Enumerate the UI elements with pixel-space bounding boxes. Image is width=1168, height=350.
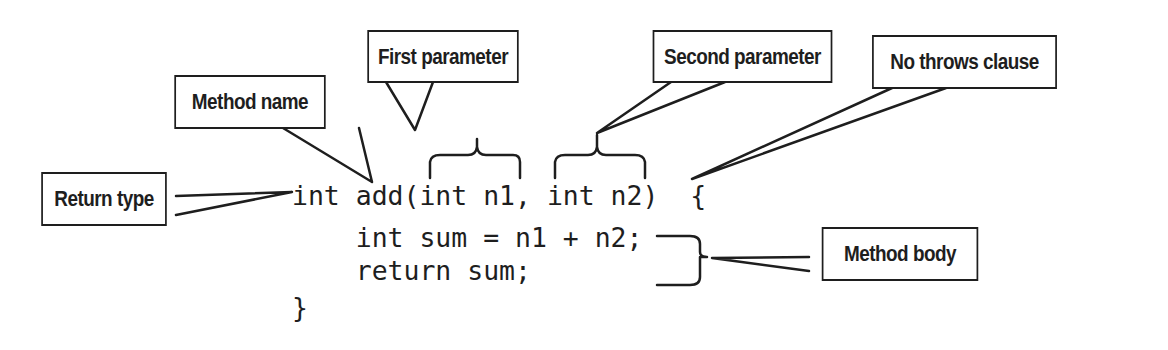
callout-label: Method body (844, 241, 956, 267)
callout-method-name: Method name (174, 75, 325, 129)
no-throws-pointer (692, 88, 946, 179)
callout-second-parameter: Second parameter (653, 30, 833, 83)
callout-label: No throws clause (890, 49, 1038, 75)
second-parameter-brace (555, 135, 645, 178)
second-parameter-pointer (597, 82, 725, 133)
code-line-signature: int add(int n1, int n2) { (292, 181, 706, 211)
code-line-return: return sum; (292, 256, 531, 286)
first-parameter-brace (430, 139, 520, 178)
callout-label: First parameter (378, 44, 508, 70)
callout-return-type: Return type (41, 172, 167, 226)
return-type-pointer (176, 192, 292, 215)
method-anatomy-diagram: First parameter Method name Second param… (0, 0, 1168, 350)
code-line-sum: int sum = n1 + n2; (292, 223, 642, 253)
callout-no-throws-clause: No throws clause (872, 35, 1057, 89)
callout-label: Method name (192, 89, 308, 115)
code-line-closing-brace: } (292, 293, 308, 323)
method-body-brace (657, 236, 707, 285)
first-parameter-pointer (386, 82, 433, 130)
callout-label: Second parameter (664, 44, 821, 70)
callout-first-parameter: First parameter (367, 30, 518, 83)
callout-method-body: Method body (822, 227, 979, 281)
method-name-pointer (283, 128, 372, 182)
method-body-pointer (712, 257, 809, 271)
callout-label: Return type (54, 186, 153, 212)
